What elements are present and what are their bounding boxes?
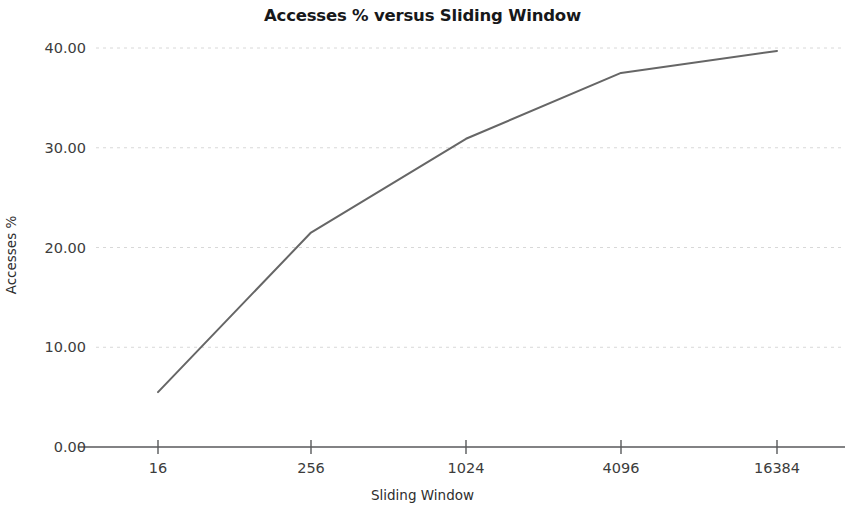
y-axis-title: Accesses % [3, 200, 19, 310]
data-line-group [158, 51, 777, 392]
y-tick-label: 40.00 [0, 40, 86, 56]
x-tick-label: 16 [149, 460, 167, 476]
gridlines-group [96, 48, 845, 347]
plot-area [0, 0, 845, 513]
chart-container: Accesses % versus Sliding Window 0.0010.… [0, 0, 845, 513]
y-tick-label: 30.00 [0, 140, 86, 156]
x-tick-label: 16384 [754, 460, 800, 476]
y-tick-label: 10.00 [0, 339, 86, 355]
y-tick-label: 0.00 [0, 439, 86, 455]
x-tick-label: 256 [297, 460, 325, 476]
x-tick-label: 1024 [448, 460, 485, 476]
x-tick-label: 4096 [603, 460, 640, 476]
data-series-line [158, 51, 777, 392]
x-axis-title: Sliding Window [0, 487, 845, 503]
